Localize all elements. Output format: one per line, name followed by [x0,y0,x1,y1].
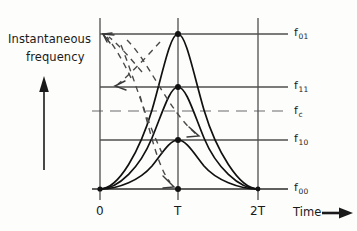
y-axis-arrow-icon [39,76,49,170]
level-label-fc: fc [294,105,302,116]
x-tick-label-0: 0 [96,205,104,217]
level-label-f01: f01 [294,27,308,38]
marker-f11-peak [175,84,181,90]
x-axis-label: Time [293,207,322,219]
y-axis-label-line1: Instantaneous [8,34,91,46]
level-label-f00-sub: 00 [298,187,308,196]
peak-markers [97,31,260,192]
instantaneous-frequency-figure: Instantaneous frequency 0 T 2T Time f01 … [0,0,357,231]
level-label-f10-sub: 10 [298,138,308,147]
level-label-f01-sub: 01 [298,32,308,41]
marker-origin [97,186,102,191]
marker-f00-peak [175,186,181,192]
level-label-fc-sub: c [298,110,302,119]
arrowhead-f00 [163,176,174,188]
curve-f01 [100,34,258,189]
level-label-f11-sub: 11 [298,85,308,94]
level-label-f10: f10 [294,133,308,144]
marker-f01-peak [175,31,181,37]
marker-end-2T [256,187,261,192]
curve-f10 [100,140,258,189]
marker-f10-peak [175,137,181,143]
level-label-f00: f00 [294,182,308,193]
signal-curves [100,34,258,189]
x-tick-label-T: T [174,205,181,217]
y-axis-label-line2: frequency [26,52,85,64]
x-tick-label-2T: 2T [250,205,265,217]
level-label-f11: f11 [294,80,308,91]
x-axis-arrow-icon [322,208,353,219]
